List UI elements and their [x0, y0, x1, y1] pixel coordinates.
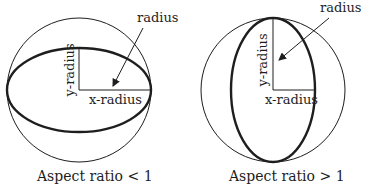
y-radius-label: y-radius: [255, 33, 270, 87]
radius-arrow: [279, 18, 329, 60]
caption-aspect-less-than-1: Aspect ratio < 1: [36, 168, 153, 184]
x-radius-label: x-radius: [265, 92, 318, 107]
radius-label: radius: [137, 10, 179, 25]
x-radius-label: x-radius: [89, 92, 142, 107]
panel-aspect-greater-than-1: radius y-radius x-radius Aspect ratio > …: [201, 0, 362, 184]
y-radius-label: y-radius: [62, 43, 77, 97]
aspect-ratio-diagram: radius y-radius x-radius Aspect ratio < …: [0, 0, 365, 189]
panel-aspect-less-than-1: radius y-radius x-radius Aspect ratio < …: [7, 10, 179, 184]
caption-aspect-greater-than-1: Aspect ratio > 1: [228, 168, 345, 184]
radius-label: radius: [320, 0, 362, 15]
